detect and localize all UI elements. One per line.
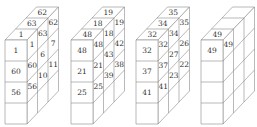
side-cell-value: 60 xyxy=(27,61,37,70)
side-cell-value: 7 xyxy=(51,39,56,48)
top-cell-value: 19 xyxy=(103,8,113,17)
top-cell-value: 49 xyxy=(212,30,222,39)
top-cell-value: 18 xyxy=(93,19,103,28)
side-cell-value: 42 xyxy=(114,39,124,48)
front-cell-value: 56 xyxy=(11,88,21,97)
side-cell-value: 49 xyxy=(223,40,233,49)
figure-2: 482125481819482125184339194238 xyxy=(71,7,125,124)
front-cell-value: 48 xyxy=(77,46,87,55)
front-cell-value: 1 xyxy=(14,46,19,55)
side-cell-value: 62 xyxy=(48,18,58,27)
front-cell-value: 41 xyxy=(142,88,152,97)
cube-puzzle-diagram: 1605616362160566361062711482125481819482… xyxy=(0,0,257,127)
side-cell-value: 27 xyxy=(169,50,179,59)
side-cell-value: 37 xyxy=(158,61,168,70)
side-cell-value: 1 xyxy=(30,40,35,49)
figure-1: 1605616362160566361062711 xyxy=(5,7,59,124)
side-cell-value: 23 xyxy=(169,71,179,80)
top-cell-value: 48 xyxy=(82,30,92,39)
side-cell-value: 39 xyxy=(104,71,114,80)
front-cell-value: 60 xyxy=(11,67,21,76)
side-cell-value: 19 xyxy=(114,18,124,27)
figure-4: 494949 xyxy=(201,7,255,124)
side-cell-value: 48 xyxy=(93,40,103,49)
side-cell-value: 25 xyxy=(93,82,103,91)
diagram-canvas: 1605616362160566361062711482125481819482… xyxy=(0,0,257,127)
side-cell-value: 6 xyxy=(40,50,45,59)
side-cell-value: 35 xyxy=(179,18,189,27)
side-cell-value: 43 xyxy=(104,50,114,59)
side-cell-value: 63 xyxy=(38,29,48,38)
figure-3: 323741323435323741342723352622 xyxy=(136,7,190,124)
side-cell-value: 22 xyxy=(179,60,189,69)
side-cell-value: 21 xyxy=(93,61,103,70)
side-cell-value: 32 xyxy=(158,40,168,49)
side-cell-value: 56 xyxy=(27,82,37,91)
front-cell-value: 49 xyxy=(207,46,217,55)
side-cell-value: 41 xyxy=(158,82,168,91)
side-cell-value: 11 xyxy=(48,60,58,69)
top-cell-value: 62 xyxy=(37,8,47,17)
top-cell-value: 35 xyxy=(168,8,178,17)
front-cell-value: 32 xyxy=(142,46,152,55)
side-cell-value: 18 xyxy=(104,29,114,38)
front-cell-value: 37 xyxy=(142,67,152,76)
side-cell-value: 34 xyxy=(169,29,179,38)
side-cell-value: 10 xyxy=(38,71,48,80)
front-cell-value: 25 xyxy=(77,88,87,97)
top-cell-value: 1 xyxy=(19,30,24,39)
top-cell-value: 63 xyxy=(27,19,37,28)
top-cell-value: 32 xyxy=(147,30,157,39)
side-cell-value: 38 xyxy=(114,60,124,69)
side-cell-value: 26 xyxy=(179,39,189,48)
front-cell-value: 21 xyxy=(77,67,87,76)
top-cell-value: 34 xyxy=(158,19,168,28)
